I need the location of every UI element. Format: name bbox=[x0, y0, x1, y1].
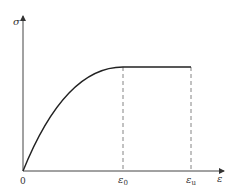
stress-strain-curve bbox=[23, 67, 191, 171]
chart-canvas bbox=[0, 0, 236, 192]
epsilon-0-sub: 0 bbox=[123, 179, 127, 187]
x-axis-label: ε bbox=[217, 174, 222, 184]
x-tick-epsilon-0: ε0 bbox=[118, 175, 128, 186]
y-axis-label: σ bbox=[13, 17, 20, 27]
epsilon-u-sub: u bbox=[191, 179, 196, 187]
x-tick-epsilon-u: εu bbox=[186, 175, 196, 186]
origin-label: 0 bbox=[20, 176, 26, 186]
